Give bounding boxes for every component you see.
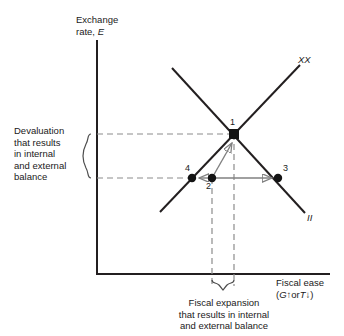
x-axis-label-line1: Fiscal ease — [276, 277, 324, 288]
point-marker-3 — [274, 174, 282, 182]
curve-label-xx: XX — [298, 54, 311, 66]
curve-label-ii: II — [307, 212, 312, 224]
point-marker-1 — [229, 129, 239, 139]
point-label-1: 1 — [230, 117, 235, 127]
fiscal-expansion-line-2: that results in internal — [179, 309, 269, 320]
point-marker-4 — [188, 174, 196, 182]
y-axis-label-line2-prefix: rate, — [76, 26, 98, 37]
devaluation-line-5: balance — [14, 171, 47, 182]
x-axis-paren-close: ) — [310, 289, 313, 300]
point-label-4: 4 — [185, 163, 190, 173]
fiscal-expansion-line-3: and external balance — [180, 320, 268, 331]
devaluation-line-2: that results — [14, 137, 60, 148]
y-axis-variable-e: E — [98, 26, 104, 37]
devaluation-line-4: and external — [14, 160, 66, 171]
devaluation-annotation: Devaluationthat resultsin internaland ex… — [14, 125, 88, 183]
fiscal-expansion-annotation: Fiscal expansionthat results in internal… — [138, 297, 310, 332]
devaluation-line-1: Devaluation — [14, 125, 64, 136]
point-label-3: 3 — [283, 163, 288, 173]
fiscal-expansion-line-1: Fiscal expansion — [189, 297, 260, 308]
point-label-2: 2 — [206, 181, 211, 191]
y-axis-label-line1: Exchange — [76, 14, 118, 25]
y-axis-label: Exchangerate, E — [76, 14, 118, 37]
devaluation-line-3: in internal — [14, 148, 55, 159]
